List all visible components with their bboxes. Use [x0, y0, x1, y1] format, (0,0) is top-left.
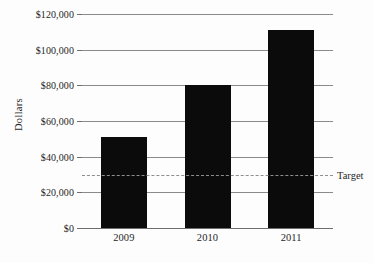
y-tick-mark — [77, 157, 82, 158]
y-tick-mark — [77, 192, 82, 193]
bar — [268, 30, 314, 228]
x-tick-label: 2011 — [249, 232, 333, 243]
y-tick-mark — [77, 85, 82, 86]
y-tick-label: $100,000 — [36, 44, 74, 55]
x-tick-label: 2009 — [82, 232, 166, 243]
target-line — [82, 175, 333, 176]
bar — [101, 137, 147, 228]
y-axis-title-label: Dollars — [13, 97, 24, 130]
x-tick-label: 2010 — [166, 232, 250, 243]
target-label: Target — [337, 169, 363, 180]
y-tick-label: $60,000 — [41, 116, 74, 127]
gridline — [82, 14, 333, 15]
y-tick-label: $20,000 — [41, 187, 74, 198]
y-tick-mark — [77, 121, 82, 122]
y-tick-label: $0 — [64, 223, 74, 234]
y-tick-label: $120,000 — [36, 9, 74, 20]
y-tick-mark — [77, 228, 82, 229]
bar-chart-figure: Dollars $0$20,000$40,000$60,000$80,000$1… — [0, 0, 373, 263]
y-tick-label: $80,000 — [41, 80, 74, 91]
bar — [185, 85, 231, 228]
y-tick-label: $40,000 — [41, 151, 74, 162]
y-axis-title: Dollars — [6, 0, 30, 228]
y-tick-mark — [77, 50, 82, 51]
axis-baseline — [82, 228, 333, 229]
y-tick-mark — [77, 14, 82, 15]
plot-area: $0$20,000$40,000$60,000$80,000$100,000$1… — [82, 14, 333, 228]
